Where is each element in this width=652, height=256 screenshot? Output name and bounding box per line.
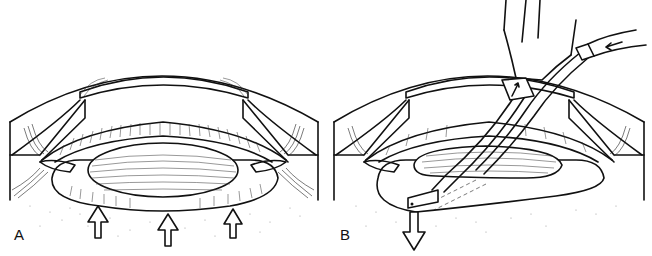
panel-label-b: B xyxy=(340,226,350,243)
up-arrow-icon xyxy=(158,214,178,246)
panel-label-a: A xyxy=(14,226,24,243)
down-arrow-icon xyxy=(403,212,425,250)
up-arrow-icon xyxy=(224,209,242,238)
eye-cross-section-b xyxy=(326,0,652,256)
eye-cross-section-a xyxy=(0,0,326,256)
vitreous-stipple xyxy=(355,205,616,232)
panel-b: B xyxy=(326,0,652,256)
panel-a: A xyxy=(0,0,326,256)
figure: A xyxy=(0,0,652,256)
up-arrow-icon xyxy=(88,206,108,238)
